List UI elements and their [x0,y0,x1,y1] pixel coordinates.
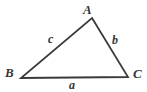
vertex-label-b: B [5,66,14,79]
triangle-figure: A B C a b c [0,0,147,92]
vertex-label-c: C [133,67,142,80]
side-label-a: a [69,79,75,91]
side-label-c: c [48,33,53,45]
vertex-label-a: A [83,3,92,16]
side-label-b: b [112,34,118,46]
triangle-shape [21,18,128,78]
